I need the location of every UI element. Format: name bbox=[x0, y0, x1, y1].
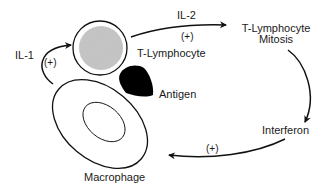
mitosis-label-line2: Mitosis bbox=[236, 34, 316, 45]
interferon-to-macrophage-arrow bbox=[169, 139, 285, 157]
antigen-label: Antigen bbox=[159, 89, 196, 100]
il2-label: IL-2 bbox=[177, 10, 196, 21]
antigen-shape bbox=[119, 66, 153, 97]
mitosis-to-interferon-arrow bbox=[288, 50, 310, 122]
t-lymphocyte-cell bbox=[73, 21, 127, 75]
il2-sign: (+) bbox=[181, 31, 194, 42]
il1-sign: (+) bbox=[44, 57, 57, 68]
il2-arrow bbox=[131, 25, 226, 37]
interferon-label: Interferon bbox=[262, 125, 309, 136]
il1-label: IL-1 bbox=[15, 50, 34, 61]
interferon-sign: (+) bbox=[206, 143, 219, 154]
t-lymphocyte-label: T-Lymphocyte bbox=[137, 48, 206, 59]
macrophage-label: Macrophage bbox=[84, 172, 145, 183]
